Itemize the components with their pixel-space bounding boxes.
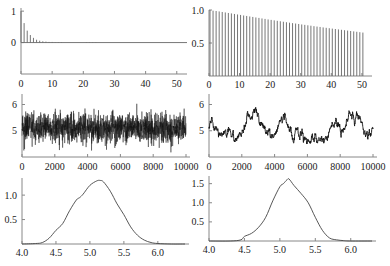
y-tick-label: 0.5 xyxy=(5,214,18,225)
figure-canvas: 0102030405001010203040500.51.00200040006… xyxy=(0,0,390,266)
panel-acf_left: 0102030405001 xyxy=(11,6,187,89)
x-tick-label: 6.0 xyxy=(344,244,357,255)
x-tick-label: 40 xyxy=(326,79,336,90)
x-tick-label: 4.0 xyxy=(203,244,216,255)
x-tick-label: 5.0 xyxy=(84,247,97,258)
x-tick-label: 50 xyxy=(172,78,182,89)
x-tick-label: 10000 xyxy=(361,161,386,172)
y-tick-label: 1.0 xyxy=(5,190,18,201)
x-tick-label: 2000 xyxy=(45,161,65,172)
x-tick-label: 4000 xyxy=(78,161,98,172)
x-tick-label: 10000 xyxy=(174,161,199,172)
x-tick-label: 5.5 xyxy=(309,244,322,255)
x-tick-label: 50 xyxy=(357,79,367,90)
trace-line xyxy=(22,104,186,153)
y-tick-label: 6 xyxy=(199,99,204,110)
x-tick-label: 5.0 xyxy=(274,244,287,255)
y-tick-label: 6 xyxy=(12,99,17,110)
y-tick-label: 0.5 xyxy=(192,216,205,227)
x-tick-label: 6000 xyxy=(297,161,317,172)
y-tick-label: 5 xyxy=(199,125,204,136)
x-tick-label: 20 xyxy=(265,79,275,90)
panel-density_right: 4.04.55.05.56.00.51.01.5 xyxy=(192,176,377,255)
x-tick-label: 0 xyxy=(19,78,24,89)
x-tick-label: 30 xyxy=(296,79,306,90)
trace-line xyxy=(209,107,373,144)
panel-trace_left: 020004000600080001000056 xyxy=(12,94,199,172)
y-tick-label: 1.0 xyxy=(192,197,205,208)
y-tick-label: 0.5 xyxy=(192,38,205,49)
x-tick-label: 4.5 xyxy=(50,247,63,258)
x-tick-label: 10 xyxy=(47,78,57,89)
x-tick-label: 20 xyxy=(78,78,88,89)
x-tick-label: 0 xyxy=(20,161,25,172)
x-tick-label: 5.5 xyxy=(118,247,131,258)
y-tick-label: 5 xyxy=(12,125,17,136)
x-tick-label: 30 xyxy=(109,78,119,89)
x-tick-label: 4000 xyxy=(265,161,285,172)
x-tick-label: 10 xyxy=(235,79,245,90)
density-curve xyxy=(209,179,372,241)
x-tick-label: 0 xyxy=(207,161,212,172)
x-tick-label: 8000 xyxy=(330,161,350,172)
x-tick-label: 2000 xyxy=(232,161,252,172)
panel-trace_right: 020004000600080001000056 xyxy=(199,94,386,172)
y-tick-label: 1.5 xyxy=(192,178,205,189)
panel-density_left: 4.04.55.05.56.00.51.0 xyxy=(5,178,190,258)
y-tick-label: 0 xyxy=(11,37,16,48)
x-tick-label: 0 xyxy=(207,79,212,90)
x-tick-label: 40 xyxy=(141,78,151,89)
y-tick-label: 1.0 xyxy=(192,5,205,16)
x-tick-label: 6.0 xyxy=(152,247,165,258)
x-tick-label: 8000 xyxy=(143,161,163,172)
x-tick-label: 4.0 xyxy=(16,247,29,258)
y-tick-label: 1 xyxy=(11,6,16,17)
panel-acf_right: 010203040500.51.0 xyxy=(192,5,373,91)
x-tick-label: 4.5 xyxy=(238,244,251,255)
density-curve xyxy=(22,180,185,244)
x-tick-label: 6000 xyxy=(110,161,130,172)
